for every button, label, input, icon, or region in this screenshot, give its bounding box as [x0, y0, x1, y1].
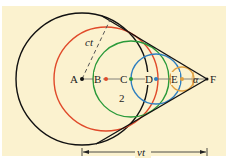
ct-label: ct	[85, 36, 94, 48]
point-c-dot	[129, 77, 133, 81]
shock-wave-diagram: A B C D E F ct 2 α vt	[0, 0, 234, 163]
point-e-dot	[180, 77, 184, 81]
point-d-dot	[154, 77, 158, 81]
point-a-dot	[80, 77, 84, 81]
point-label-e: E	[171, 73, 178, 85]
point-b-dot	[104, 77, 108, 81]
region-number-label: 2	[119, 92, 125, 104]
point-label-f: F	[210, 73, 216, 85]
point-label-a: A	[70, 73, 78, 85]
point-label-b: B	[94, 73, 101, 85]
point-label-d: D	[145, 73, 153, 85]
angle-alpha-label: α	[193, 74, 199, 85]
point-f-dot	[206, 78, 209, 81]
point-label-c: C	[120, 73, 127, 85]
vt-label: vt	[137, 146, 146, 158]
